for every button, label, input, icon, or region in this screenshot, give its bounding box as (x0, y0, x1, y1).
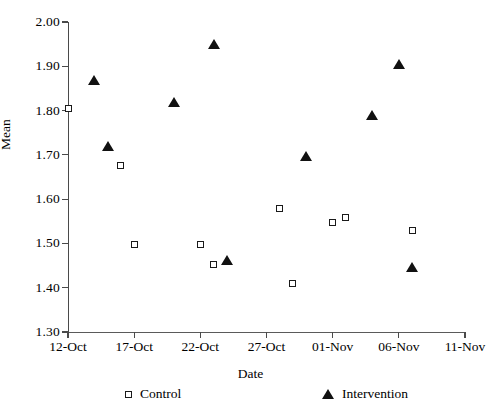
y-tick-mark (62, 21, 68, 22)
y-tick-label: 1.50 (0, 236, 60, 250)
y-tick-label-wrap: 1.40 (0, 281, 60, 295)
filled-triangle-icon (322, 389, 334, 399)
y-tick-label-wrap: 1.50 (0, 236, 60, 250)
data-point-intervention (300, 151, 312, 161)
data-point-intervention (208, 39, 220, 49)
x-tick-mark (332, 332, 333, 338)
y-tick-label-wrap: 2.00 (0, 15, 60, 29)
open-square-icon (125, 391, 132, 398)
x-tick-label: 17-Oct (99, 340, 169, 354)
chart-legend: Control Intervention (0, 386, 501, 406)
x-tick-mark (67, 332, 68, 338)
data-point-control (131, 241, 138, 248)
data-point-control (197, 241, 204, 248)
x-tick-label: 11-Nov (430, 340, 500, 354)
data-point-control (329, 219, 336, 226)
data-point-control (210, 261, 217, 268)
data-point-control (117, 162, 124, 169)
x-tick-label: 27-Oct (232, 340, 302, 354)
data-point-control (65, 105, 72, 112)
data-point-intervention (393, 59, 405, 69)
x-tick-label: 12-Oct (33, 340, 103, 354)
legend-label-intervention: Intervention (342, 386, 408, 402)
data-point-intervention (168, 97, 180, 107)
legend-item-intervention[interactable]: Intervention (322, 386, 408, 402)
y-tick-mark (62, 154, 68, 155)
data-point-control (289, 280, 296, 287)
y-tick-label-wrap: 1.60 (0, 192, 60, 206)
y-tick-mark (62, 199, 68, 200)
x-axis-title: Date (0, 366, 501, 382)
y-tick-label: 1.80 (0, 104, 60, 118)
data-point-control (342, 214, 349, 221)
y-tick-mark (62, 66, 68, 67)
y-axis-line (68, 22, 69, 333)
y-tick-label-wrap: 1.30 (0, 325, 60, 339)
legend-item-control[interactable]: Control (125, 386, 181, 402)
x-tick-mark (464, 332, 465, 338)
x-tick-mark (200, 332, 201, 338)
y-tick-label-wrap: 1.80 (0, 104, 60, 118)
x-tick-label: 06-Nov (364, 340, 434, 354)
data-point-control (409, 227, 416, 234)
data-point-intervention (406, 262, 418, 272)
x-tick-label: 01-Nov (298, 340, 368, 354)
scatter-chart: 2.001.901.801.701.601.501.401.30 12-Oct1… (0, 0, 501, 419)
y-tick-label: 1.60 (0, 192, 60, 206)
data-point-control (276, 205, 283, 212)
data-point-intervention (366, 110, 378, 120)
x-tick-label: 22-Oct (165, 340, 235, 354)
y-tick-label: 2.00 (0, 15, 60, 29)
data-point-intervention (102, 141, 114, 151)
y-tick-mark (62, 287, 68, 288)
y-tick-label: 1.40 (0, 281, 60, 295)
legend-label-control: Control (140, 386, 181, 402)
x-tick-mark (134, 332, 135, 338)
y-tick-label: 1.90 (0, 59, 60, 73)
data-point-intervention (88, 75, 100, 85)
y-tick-label-wrap: 1.90 (0, 59, 60, 73)
y-axis-title: Mean (0, 119, 14, 150)
x-tick-mark (266, 332, 267, 338)
x-tick-mark (398, 332, 399, 338)
y-tick-mark (62, 243, 68, 244)
data-point-intervention (221, 255, 233, 265)
y-tick-label: 1.30 (0, 325, 60, 339)
